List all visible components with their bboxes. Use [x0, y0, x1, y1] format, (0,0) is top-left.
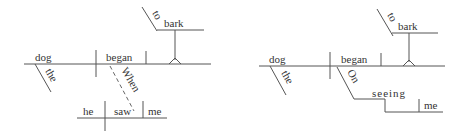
sentence-diagrams: dog began the to bark When he saw me dog…: [0, 0, 465, 140]
infinitive-verb: bark: [164, 17, 184, 29]
subject-word: dog: [35, 51, 52, 63]
clause-verb: saw: [114, 105, 131, 117]
verb-word: began: [106, 51, 133, 63]
modifier-word: the: [279, 68, 296, 86]
diagram-left: dog began the to bark When he saw me: [24, 7, 211, 131]
modifier-word: the: [43, 66, 60, 84]
infinitive-to: to: [150, 8, 165, 22]
preposition-word: On: [345, 67, 362, 85]
verb-word: began: [341, 53, 368, 65]
gerund-word: seeing: [372, 87, 406, 99]
clause-object: me: [148, 105, 162, 117]
gerund-object: me: [424, 99, 438, 111]
infinitive-verb: bark: [398, 20, 418, 32]
subject-word: dog: [269, 53, 286, 65]
clause-subject: he: [83, 105, 94, 117]
diagram-right: dog began the to bark On seeing me: [259, 9, 445, 112]
connector-word: When: [119, 65, 143, 94]
